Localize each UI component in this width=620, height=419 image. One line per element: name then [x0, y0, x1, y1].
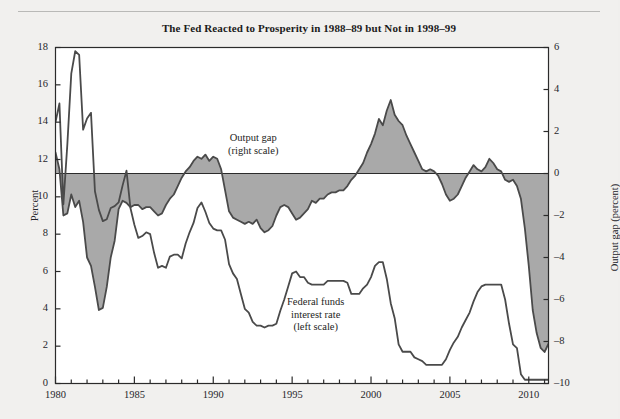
- right-tick-label: 4: [554, 83, 584, 94]
- right-tick-label: 0: [554, 167, 584, 178]
- right-tick-label: –10: [554, 377, 584, 388]
- annotation-output-gap: Output gap (right scale): [228, 132, 278, 157]
- x-tick-label: 1995: [272, 389, 312, 400]
- right-tick-label: –4: [554, 251, 584, 262]
- right-tick-label: 6: [554, 41, 584, 52]
- annotation-fed-funds: Federal funds interest rate (left scale): [287, 296, 344, 334]
- x-tick-label: 2000: [351, 389, 391, 400]
- left-tick-label: 6: [24, 265, 48, 276]
- annotation-fed-funds-line2: interest rate: [287, 309, 344, 322]
- annotation-output-gap-line1: Output gap: [228, 132, 278, 145]
- left-tick-label: 18: [24, 41, 48, 52]
- right-tick-label: –6: [554, 293, 584, 304]
- x-tick-label: 2005: [430, 389, 470, 400]
- x-tick-label: 1990: [193, 389, 233, 400]
- annotation-fed-funds-line3: (left scale): [287, 321, 344, 334]
- x-tick-label: 2010: [509, 389, 549, 400]
- left-tick-label: 4: [24, 302, 48, 313]
- left-tick-label: 12: [24, 153, 48, 164]
- left-tick-label: 0: [24, 377, 48, 388]
- x-tick-label: 1980: [36, 389, 76, 400]
- left-tick-label: 10: [24, 190, 48, 201]
- left-tick-label: 14: [24, 115, 48, 126]
- annotation-output-gap-line2: (right scale): [228, 145, 278, 158]
- annotation-fed-funds-line1: Federal funds: [287, 296, 344, 309]
- right-tick-label: –8: [554, 335, 584, 346]
- right-tick-label: –2: [554, 209, 584, 220]
- right-tick-label: 2: [554, 125, 584, 136]
- x-tick-label: 1985: [114, 389, 154, 400]
- left-tick-label: 2: [24, 339, 48, 350]
- left-tick-label: 8: [24, 227, 48, 238]
- right-axis-label: Output gap (percent): [609, 148, 620, 308]
- left-tick-label: 16: [24, 78, 48, 89]
